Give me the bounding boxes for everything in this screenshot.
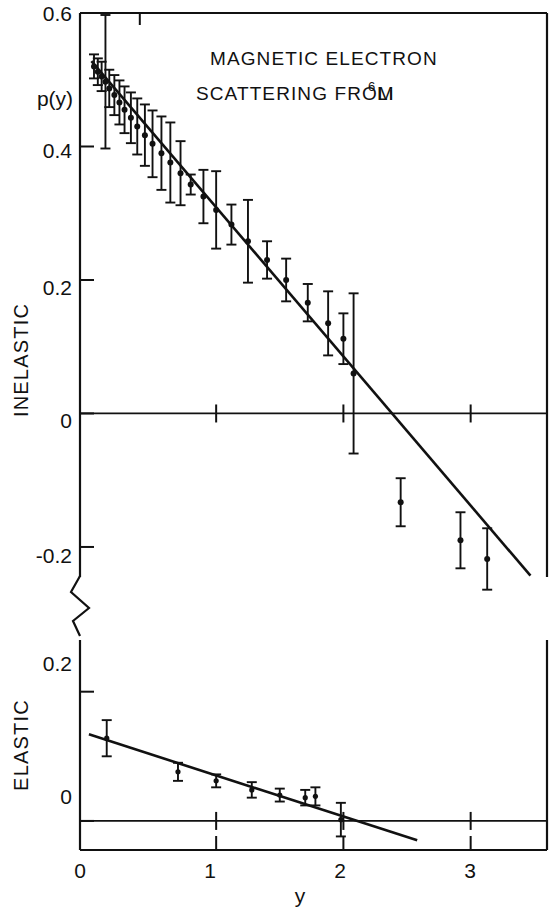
x-tick-label-0: 0 (74, 859, 86, 882)
data-point-27 (455, 512, 465, 568)
data-point-15 (186, 175, 196, 195)
data-point-13 (165, 122, 175, 202)
data-point-14 (176, 141, 186, 205)
data-marker-5 (303, 795, 308, 800)
data-marker-5 (111, 92, 117, 98)
data-marker-13 (167, 160, 173, 166)
data-point-8 (126, 92, 136, 143)
data-point-22 (303, 284, 313, 321)
data-marker-0 (91, 63, 97, 69)
data-marker-7 (338, 817, 343, 822)
isotope-element: Li (377, 83, 394, 104)
axis-frames (80, 13, 547, 850)
panel-label-elastic: ELASTIC (10, 699, 32, 791)
data-marker-16 (200, 194, 206, 200)
data-point-11 (148, 110, 158, 177)
isotope-superscript: 6 (368, 79, 376, 94)
plot-title-line1: MAGNETIC ELECTRON (210, 48, 438, 69)
data-marker-12 (158, 150, 164, 156)
data-marker-18 (228, 222, 234, 228)
y-tick-label-top-4: -0.2 (36, 544, 72, 567)
data-point-24 (338, 313, 348, 364)
y-tick-label-top-0: 0.6 (43, 2, 72, 25)
data-marker-20 (264, 257, 270, 263)
panel-label-inelastic: INELASTIC (10, 303, 32, 417)
data-marker-26 (398, 499, 404, 505)
data-marker-4 (106, 85, 112, 91)
x-tick-label-2: 2 (334, 859, 346, 882)
axis-ticks (80, 13, 471, 850)
data-marker-8 (128, 115, 134, 121)
data-marker-7 (122, 107, 128, 113)
data-marker-1 (175, 769, 180, 774)
data-marker-14 (178, 170, 184, 176)
y-tick-label-bottom-0: 0.2 (43, 652, 72, 675)
data-point-12 (156, 116, 166, 189)
data-marker-2 (214, 778, 219, 783)
data-marker-6 (313, 794, 318, 799)
y-tick-label-top-1: 0.4 (43, 139, 73, 162)
data-marker-10 (142, 132, 148, 138)
elastic-fit-line (89, 734, 417, 840)
y-tick-label-top-3: 0 (60, 409, 72, 432)
data-point-9 (132, 98, 142, 154)
plot-title-line2-text: SCATTERING FROM (196, 83, 395, 104)
data-point-10 (140, 104, 150, 165)
data-marker-4 (277, 792, 282, 797)
plot-title-line2: SCATTERING FROM 6 Li (196, 79, 395, 104)
data-point-20 (262, 241, 272, 278)
data-marker-17 (213, 207, 219, 213)
figure-container: 0.6 0.4 0.2 0 -0.2 0.2 0 0 1 2 3 p(y) y … (0, 0, 558, 909)
data-marker-2 (99, 73, 105, 79)
data-marker-28 (484, 556, 490, 562)
data-point-7 (120, 86, 130, 133)
data-point-23 (323, 291, 333, 355)
x-axis-title: y (295, 884, 306, 907)
data-marker-9 (134, 123, 140, 129)
data-point-26 (396, 478, 406, 526)
data-point-28 (482, 528, 492, 589)
data-marker-24 (340, 336, 346, 342)
axis-break-zigzag (71, 576, 89, 636)
y-tick-label-top-2: 0.2 (43, 276, 72, 299)
data-marker-0 (104, 736, 109, 741)
x-tick-label-3: 3 (464, 859, 476, 882)
inelastic-fit-line (91, 61, 530, 576)
data-marker-15 (188, 182, 194, 188)
data-marker-3 (102, 79, 108, 85)
x-tick-label-1: 1 (204, 859, 216, 882)
data-marker-21 (283, 277, 289, 283)
data-marker-11 (150, 141, 156, 147)
data-marker-23 (325, 320, 331, 326)
data-marker-6 (116, 99, 122, 105)
data-marker-19 (245, 238, 251, 244)
data-marker-22 (305, 300, 311, 306)
data-point-6 (310, 787, 320, 805)
data-marker-1 (95, 69, 101, 75)
y-tick-label-bottom-1: 0 (60, 785, 72, 808)
data-point-18 (226, 205, 236, 245)
data-marker-25 (351, 370, 357, 376)
y-axis-title: p(y) (37, 87, 73, 110)
elastic-data-layer (89, 720, 417, 840)
axis-break-marker (71, 576, 89, 636)
data-marker-27 (457, 537, 463, 543)
scatter-plot-svg: 0.6 0.4 0.2 0 -0.2 0.2 0 0 1 2 3 p(y) y … (0, 0, 558, 909)
data-marker-3 (249, 787, 254, 792)
